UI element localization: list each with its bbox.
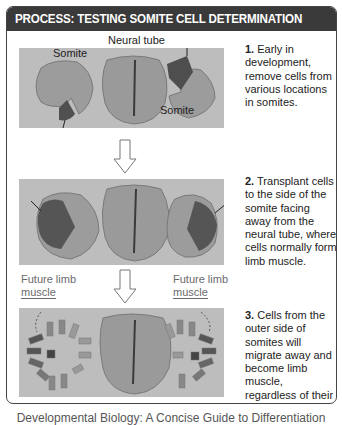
migration-illustration — [19, 308, 224, 397]
step-1-description: Early in development, remove cells from … — [245, 43, 332, 108]
step-3-description: Cells from the outer side of somites wil… — [245, 309, 333, 404]
future-limb-muscle-label-left: Future limb muscle — [21, 273, 76, 299]
step-2-description: Transplant cells to the side of the somi… — [245, 175, 337, 267]
down-arrow-icon — [113, 139, 137, 175]
step-1-number: 1. — [245, 43, 254, 55]
somite-label-right: Somite — [160, 104, 194, 116]
panel-step-2-image — [19, 179, 224, 265]
figure-title: PROCESS: TESTING SOMITE CELL DETERMINATI… — [15, 7, 302, 31]
figure-title-bar: PROCESS: TESTING SOMITE CELL DETERMINATI… — [7, 7, 336, 31]
somite-removal-illustration — [19, 48, 224, 128]
step-1-text: 1. Early in development, remove cells fr… — [245, 43, 337, 109]
future-limb-right-line1: Future limb — [173, 273, 228, 286]
somite-label-left: Somite — [53, 47, 87, 59]
down-arrow-icon — [113, 269, 137, 305]
step-3-number: 3. — [245, 309, 254, 321]
migrating-somite-left — [27, 320, 91, 390]
future-limb-left-line1: Future limb — [21, 273, 76, 286]
neural-tube-label: Neural tube — [108, 34, 165, 46]
future-limb-left-line2: muscle — [21, 286, 56, 299]
transplant-illustration — [19, 179, 224, 265]
process-figure: PROCESS: TESTING SOMITE CELL DETERMINATI… — [6, 6, 337, 404]
step-2-number: 2. — [245, 175, 254, 187]
future-limb-right-line2: muscle — [173, 286, 208, 299]
future-limb-muscle-label-right: Future limb muscle — [173, 273, 228, 299]
figure-caption-partial: Developmental Biology: A Concise Guide t… — [0, 411, 342, 421]
step-2-text: 2. Transplant cells to the side of the s… — [245, 175, 337, 268]
step-3-text: 3. Cells from the outer side of somites … — [245, 309, 337, 404]
panel-step-3-image — [19, 308, 224, 397]
panel-step-1-image — [19, 48, 224, 128]
